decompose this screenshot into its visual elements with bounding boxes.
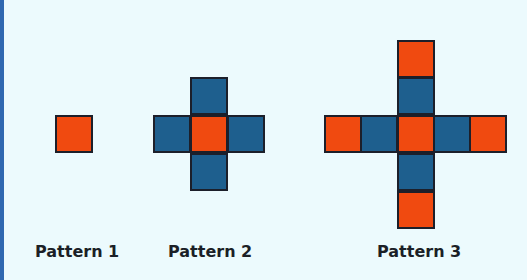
square-orange xyxy=(469,115,507,153)
square-orange xyxy=(190,115,228,153)
pattern-label: Pattern 3 xyxy=(377,242,461,261)
square-blue xyxy=(433,115,471,153)
square-orange xyxy=(397,191,435,229)
pattern-label: Pattern 2 xyxy=(168,242,252,261)
square-blue xyxy=(360,115,398,153)
left-accent-bar xyxy=(0,0,4,280)
square-blue xyxy=(190,77,228,115)
square-blue xyxy=(153,115,191,153)
square-blue xyxy=(397,153,435,191)
square-orange xyxy=(324,115,362,153)
square-orange xyxy=(397,40,435,78)
square-blue xyxy=(190,153,228,191)
pattern-label: Pattern 1 xyxy=(35,242,119,261)
square-orange xyxy=(397,115,435,153)
square-orange xyxy=(55,115,93,153)
square-blue xyxy=(397,77,435,115)
square-blue xyxy=(227,115,265,153)
